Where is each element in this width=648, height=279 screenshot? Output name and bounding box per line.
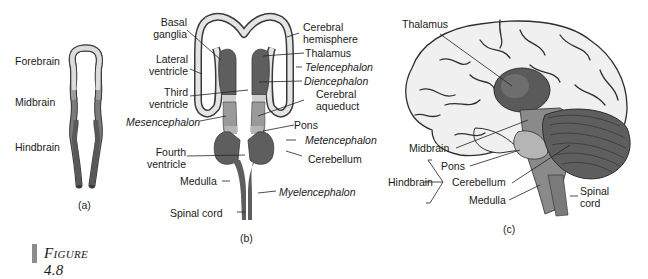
label-medulla-c: Medulla	[469, 194, 506, 206]
panel-a-label: (a)	[78, 199, 91, 211]
label-medulla: Medulla	[180, 175, 217, 187]
label-telencephalon: Telencephalon	[305, 61, 373, 73]
label-pons-c: Pons	[441, 160, 465, 172]
label-hindbrain-c: Hindbrain	[388, 176, 433, 188]
panel-c-label: (c)	[503, 223, 515, 235]
neural-tube-illustration	[72, 48, 99, 185]
label-midbrain-c: Midbrain	[409, 142, 449, 154]
label-lateral-ventricle: Lateralventricle	[136, 53, 188, 77]
label-midbrain: Midbrain	[15, 96, 55, 108]
label-metencephalon: Metencephalon	[305, 134, 377, 146]
label-basal-ganglia: Basalganglia	[141, 16, 187, 40]
label-myelencephalon: Myelencephalon	[279, 186, 355, 198]
caption-accent-bar	[32, 244, 37, 263]
label-thalamus-c: Thalamus	[402, 18, 448, 30]
label-spinal-cord-c: Spinalcord	[580, 185, 609, 209]
label-spinal-cord: Spinal cord	[170, 207, 223, 219]
panel-b-label: (b)	[240, 232, 253, 244]
label-cerebral-hemisphere: Cerebralhemisphere	[303, 21, 358, 45]
label-pons-b: Pons	[294, 119, 318, 131]
label-diencephalon: Diencephalon	[304, 75, 368, 87]
label-forebrain: Forebrain	[15, 55, 60, 67]
label-thalamus-b: Thalamus	[305, 47, 351, 59]
label-cerebellum-c: Cerebellum	[452, 176, 506, 188]
label-fourth-ventricle: Fourthventricle	[134, 146, 186, 170]
label-hindbrain: Hindbrain	[15, 141, 60, 153]
label-third-ventricle: Thirdventricle	[136, 86, 188, 110]
caption-text: Figure 4.8	[44, 245, 88, 279]
label-cerebral-aqueduct: Cerebralaqueduct	[316, 88, 359, 112]
label-mesencephalon: Mesencephalon	[126, 116, 200, 128]
label-cerebellum-b: Cerebellum	[308, 153, 362, 165]
